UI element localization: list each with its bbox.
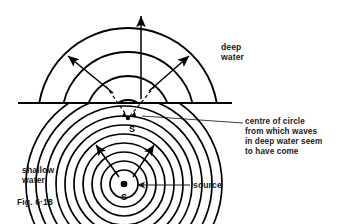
label-source: source <box>193 181 222 191</box>
real-source-point <box>121 181 128 188</box>
deep-ray-right-arrow <box>149 56 189 91</box>
wave-refraction-diagram <box>0 0 338 224</box>
shallow-water-wavefronts <box>26 86 222 224</box>
virtual-source-point <box>126 116 130 120</box>
figure-container: deep water shallow water centre of circl… <box>0 0 338 224</box>
label-shallow-water: shallow water <box>22 166 54 185</box>
label-virtual-source-marker: S <box>129 124 135 134</box>
annotation-leader-line <box>142 116 243 123</box>
shallow-ray-left-arrow <box>96 145 119 177</box>
deep-ray-left-arrow <box>68 56 113 93</box>
label-real-source-marker: S <box>121 192 127 202</box>
figure-number: Fig. 6·18 <box>17 198 53 208</box>
label-centre-of-circle-annotation: centre of circle from which waves in dee… <box>245 117 322 157</box>
label-deep-water: deep water <box>221 43 244 62</box>
